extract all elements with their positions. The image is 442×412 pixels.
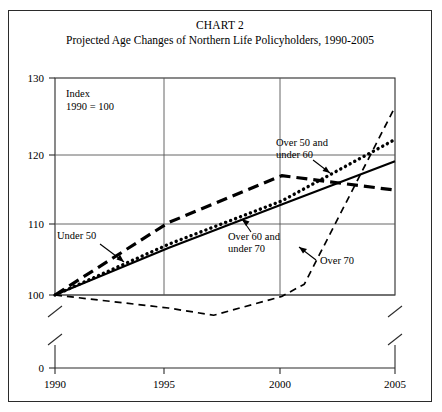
axis-break-right-upper <box>388 306 402 317</box>
ytick-label-130: 130 <box>28 72 45 84</box>
series-label-under-50: Under 50 <box>57 230 96 241</box>
series-label-over-50-line1: Over 50 and <box>276 137 329 148</box>
index-note-line2: 1990 = 100 <box>66 101 114 112</box>
series-line-over-60-and-under-70 <box>55 161 395 295</box>
ytick-label-0: 0 <box>39 362 45 374</box>
xtick-label-1990: 1990 <box>44 378 67 390</box>
chart-figure: CHART 2 Projected Age Changes of Norther… <box>0 0 442 412</box>
series-line-over-70 <box>55 107 395 315</box>
arrowhead-over-60 <box>242 219 250 226</box>
series-label-over-70: Over 70 <box>320 255 354 266</box>
series-layer <box>55 107 395 315</box>
series-label-over-60-line1: Over 60 and <box>228 231 281 242</box>
xtick-label-1995: 1995 <box>153 378 176 390</box>
chart-plot: 130 120 110 100 0 1990 1995 2000 2005 In… <box>0 0 442 412</box>
xtick-label-2005: 2005 <box>384 378 407 390</box>
ytick-label-100: 100 <box>28 289 45 301</box>
axis-break-left-upper <box>48 306 62 317</box>
ytick-label-120: 120 <box>28 149 45 161</box>
axis-break-right-lower <box>388 334 402 345</box>
series-line-under-50 <box>55 176 395 295</box>
ytick-label-110: 110 <box>28 218 45 230</box>
series-label-over-60-line2: under 70 <box>228 243 265 254</box>
axis-break-left-lower <box>48 334 62 345</box>
index-note-line1: Index <box>66 88 91 99</box>
series-label-over-50-line2: under 60 <box>276 149 313 160</box>
series-line-over-50-and-under-60 <box>55 139 395 295</box>
xtick-label-2000: 2000 <box>269 378 292 390</box>
